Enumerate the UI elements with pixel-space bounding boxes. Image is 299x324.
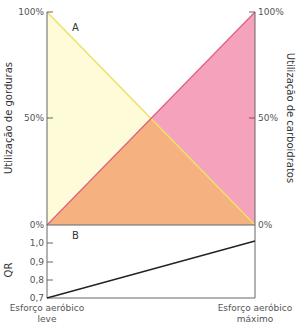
tick-100-left: 100% <box>18 7 44 17</box>
xlabel-left-2: leve <box>38 314 57 324</box>
tick-50-left: 50% <box>24 113 44 123</box>
xlabel-left-1: Esforço aeróbico <box>10 303 85 313</box>
label-a: A <box>72 22 79 33</box>
xlabel-right-1: Esforço aeróbico <box>218 303 293 313</box>
qr-tick-0-7: 0,7 <box>30 293 44 303</box>
qr-tick-0-8: 0,8 <box>30 275 45 285</box>
ylabel-left: Utilização de gorduras <box>3 62 14 174</box>
chart: 100% 50% 0% 100% 50% 0% 1,0 0,9 0,8 0,7 … <box>0 0 299 324</box>
qr-tick-1-0: 1,0 <box>30 238 45 248</box>
qr-tick-0-9: 0,9 <box>30 257 45 267</box>
tick-0-left: 0% <box>30 220 45 230</box>
xlabel-right-2: máximo <box>237 314 274 324</box>
tick-0-right: 0% <box>258 220 273 230</box>
qr-line <box>47 241 255 298</box>
ylabel-qr: QR <box>3 263 14 278</box>
tick-50-right: 50% <box>258 113 278 123</box>
ylabel-right: Utilização de carboidratos <box>285 53 296 183</box>
tick-100-right: 100% <box>258 7 284 17</box>
label-b: B <box>72 230 79 241</box>
